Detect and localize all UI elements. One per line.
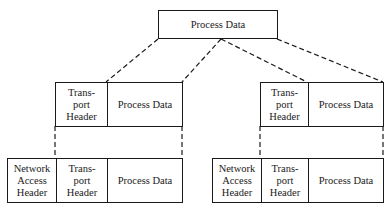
process-data-cell: Process Data bbox=[308, 159, 383, 202]
bottom-left-frame: Network Access Header Trans- port Header… bbox=[7, 158, 183, 203]
bottom-right-frame: Network Access Header Trans- port Header… bbox=[212, 158, 384, 203]
network-access-header-cell: Network Access Header bbox=[8, 159, 56, 202]
process-data-cell: Process Data bbox=[107, 83, 182, 126]
dashed-connector bbox=[182, 39, 221, 82]
transport-header-cell: Trans- port Header bbox=[56, 159, 107, 202]
transport-header-cell: Trans- port Header bbox=[56, 83, 107, 126]
transport-header-cell: Trans- port Header bbox=[261, 159, 308, 202]
middle-right-packet: Trans- port Header Process Data bbox=[260, 82, 384, 127]
middle-left-packet: Trans- port Header Process Data bbox=[55, 82, 183, 127]
dashed-connector bbox=[106, 39, 158, 82]
network-access-header-cell: Network Access Header bbox=[213, 159, 261, 202]
process-data-cell: Process Data bbox=[308, 83, 383, 126]
top-process-data-box: Process Data bbox=[158, 10, 278, 39]
encapsulation-diagram: Process Data Trans- port Header Process … bbox=[0, 0, 390, 209]
transport-header-cell: Trans- port Header bbox=[261, 83, 308, 126]
process-data-cell: Process Data bbox=[107, 159, 182, 202]
process-data-label: Process Data bbox=[159, 11, 277, 38]
